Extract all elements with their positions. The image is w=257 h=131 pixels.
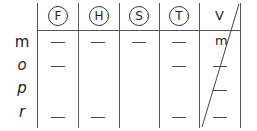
diagonal-strike (0, 0, 257, 131)
